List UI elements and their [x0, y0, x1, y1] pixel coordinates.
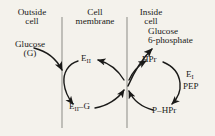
- node-enzyme-II: EII: [81, 54, 91, 63]
- header-outside-line2: cell: [4, 17, 60, 26]
- hpr-label: HPr: [142, 54, 157, 64]
- header-membrane-line2: membrane: [66, 17, 124, 26]
- right-cycle-descending-arc: [163, 62, 180, 104]
- enzyme-IIG-subscript: II: [75, 105, 79, 112]
- node-enzyme-II-glucose: EII–G: [69, 102, 90, 111]
- enzyme-I-label: EI: [186, 70, 194, 79]
- left-cycle-to-crossing-arc: [95, 90, 124, 108]
- node-phospho-hpr: P–HPr: [152, 106, 176, 115]
- enzyme-IIG-base: E: [69, 101, 75, 111]
- enzyme-II-subscript: II: [87, 57, 91, 64]
- substrate-glucose-label: Glucose (G): [4, 40, 56, 59]
- node-hpr: HPr: [142, 55, 157, 64]
- enzyme-II-base: E: [81, 53, 87, 63]
- substrate-line2: (G): [4, 49, 56, 58]
- header-inside-cell: Inside cell: [131, 8, 171, 27]
- left-cycle-descending-arc: [64, 61, 78, 104]
- pts-glucose-transport-figure: Outside cell Cell membrane Inside cell G…: [0, 0, 215, 136]
- pep-label: PEP: [183, 82, 199, 91]
- product-line2: 6-phosphate: [148, 36, 193, 45]
- phospho-hpr-tail: HPr: [162, 105, 177, 115]
- product-glucose-6-phosphate-label: Glucose 6-phosphate: [148, 27, 193, 46]
- enzyme-I-subscript: I: [192, 73, 194, 80]
- header-cell-membrane: Cell membrane: [66, 8, 124, 27]
- header-outside-cell: Outside cell: [4, 8, 60, 27]
- enzyme-IIG-tail: G: [83, 101, 90, 111]
- right-cycle-to-crossing-arc: [129, 91, 153, 110]
- enzyme-I-base: E: [186, 69, 192, 79]
- pep-text: PEP: [183, 81, 199, 91]
- left-cycle-ascending-arc: [98, 60, 124, 80]
